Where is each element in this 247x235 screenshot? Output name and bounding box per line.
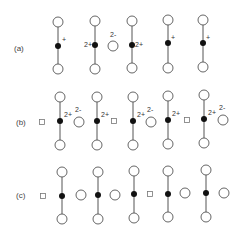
row-label: (b) — [16, 118, 26, 127]
diagram-canvas: (a)+2+2+++2-(b)2+2+2+2+2+2-2-2-(c) — [0, 0, 247, 235]
charge-label: 2+ — [84, 41, 92, 48]
atom-circle-bottom — [92, 140, 102, 150]
charge-label: 2- — [75, 106, 82, 113]
atom-circle-bottom — [55, 140, 65, 150]
atom-circle-bottom — [163, 139, 173, 149]
atom-circle-top — [127, 16, 137, 26]
molecule: 2+ — [163, 91, 180, 149]
center-atom-dot — [55, 43, 61, 49]
atom-circle-top — [92, 92, 102, 102]
molecule — [201, 165, 211, 222]
molecule: 2+ — [55, 92, 72, 150]
molecule: 2+ — [127, 16, 143, 73]
center-atom-dot — [165, 191, 171, 197]
charge-label: + — [62, 36, 66, 43]
atom-circle-bottom — [198, 62, 208, 72]
center-atom-dot — [57, 118, 63, 124]
atom-circle-bottom — [53, 64, 63, 74]
atom-circle-top — [163, 91, 173, 101]
center-atom-dot — [59, 193, 65, 199]
anion-circle — [74, 117, 84, 127]
molecule: 2+ — [84, 16, 100, 74]
atom-circle-bottom — [127, 63, 137, 73]
anion-circle — [108, 41, 118, 51]
anion-circle — [218, 115, 228, 125]
charge-label: 2- — [147, 106, 154, 113]
atom-circle-bottom — [93, 214, 103, 224]
atom-circle-top — [163, 166, 173, 176]
atom-circle-bottom — [129, 213, 139, 223]
molecule-ion-diagram: (a)+2+2+++2-(b)2+2+2+2+2+2-2-2-(c) — [0, 0, 247, 235]
row-label: (a) — [14, 44, 24, 53]
atom-circle-bottom — [90, 64, 100, 74]
atom-circle-top — [90, 16, 100, 26]
center-atom-dot — [131, 191, 137, 197]
atom-circle-top — [128, 92, 138, 102]
atom-circle-top — [129, 166, 139, 176]
center-atom-dot — [201, 116, 207, 122]
atom-circle-top — [163, 15, 173, 25]
row-c: (c) — [16, 165, 229, 224]
row-b: (b)2+2+2+2+2+2-2-2- — [16, 90, 228, 150]
atom-circle-bottom — [199, 138, 209, 148]
vacancy-square — [148, 192, 153, 197]
anion-circle — [146, 117, 156, 127]
vacancy-square — [112, 119, 117, 124]
molecule: 2+ — [92, 92, 109, 150]
charge-label: 2+ — [135, 41, 143, 48]
molecule: 2+ — [128, 92, 145, 150]
molecule: + — [163, 15, 175, 73]
molecule — [57, 167, 67, 224]
atom-circle-bottom — [201, 212, 211, 222]
row-a: (a)+2+2+++2- — [14, 15, 210, 74]
center-atom-dot — [203, 190, 209, 196]
atom-circle-bottom — [163, 212, 173, 222]
charge-label: 2- — [219, 104, 226, 111]
molecule — [163, 166, 173, 222]
atom-circle-top — [201, 165, 211, 175]
anion-circle — [180, 188, 190, 198]
atom-circle-top — [198, 15, 208, 25]
atom-circle-top — [55, 92, 65, 102]
center-atom-dot — [95, 192, 101, 198]
atom-circle-top — [199, 90, 209, 100]
anion-circle — [76, 190, 86, 200]
charge-label: 2+ — [172, 110, 180, 117]
molecule: + — [198, 15, 210, 72]
atom-circle-bottom — [163, 63, 173, 73]
charge-label: + — [206, 34, 210, 41]
anion-circle — [219, 188, 229, 198]
molecule — [93, 167, 103, 224]
center-atom-dot — [94, 118, 100, 124]
atom-circle-bottom — [128, 140, 138, 150]
charge-label: 2+ — [101, 111, 109, 118]
vacancy-square — [41, 194, 46, 199]
vacancy-square — [185, 118, 190, 123]
charge-label: 2+ — [137, 111, 145, 118]
vacancy-square — [40, 120, 45, 125]
molecule: 2+ — [199, 90, 216, 148]
charge-label: 2+ — [64, 111, 72, 118]
charge-label: + — [171, 34, 175, 41]
atom-circle-bottom — [57, 214, 67, 224]
center-atom-dot — [165, 117, 171, 123]
atom-circle-top — [57, 167, 67, 177]
row-label: (c) — [16, 191, 26, 200]
center-atom-dot — [130, 118, 136, 124]
anion-circle — [110, 190, 120, 200]
charge-label: 2+ — [208, 109, 216, 116]
atom-circle-top — [53, 17, 63, 27]
atom-circle-top — [93, 167, 103, 177]
charge-label: 2- — [110, 31, 117, 38]
molecule — [129, 166, 139, 223]
center-atom-dot — [92, 42, 98, 48]
molecule: + — [53, 17, 66, 74]
